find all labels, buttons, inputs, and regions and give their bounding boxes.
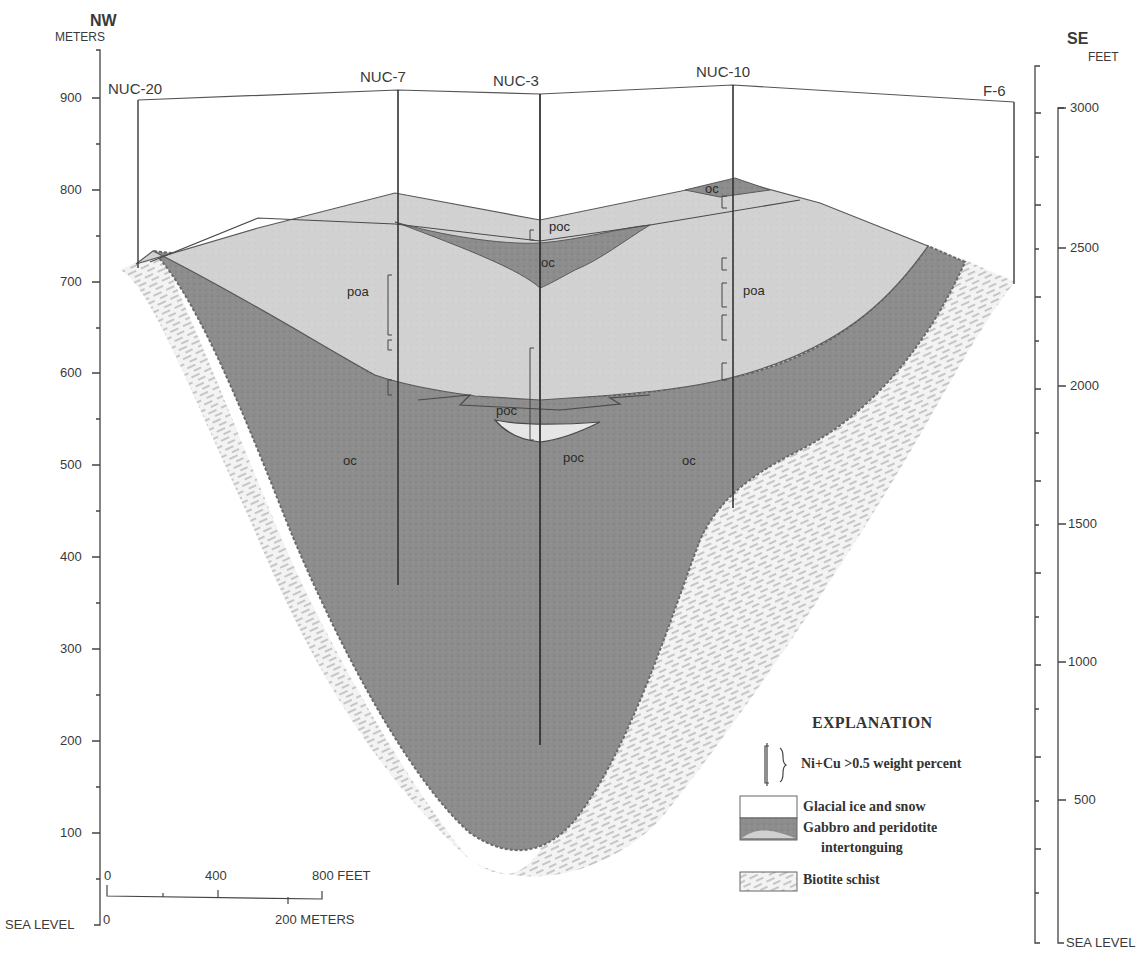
right-tick-1500: 1500 xyxy=(1068,516,1097,531)
right-tick-500: 500 xyxy=(1074,792,1096,807)
schist-swatch xyxy=(740,872,797,891)
left-tick-500: 500 xyxy=(60,457,82,472)
se-direction-label: SE xyxy=(1067,30,1088,48)
scale-meters-0: 0 xyxy=(103,912,110,927)
left-tick-900: 900 xyxy=(60,90,82,105)
survey-line xyxy=(138,85,1014,102)
legend-item-gabbro-line2: intertonguing xyxy=(821,840,903,856)
left-tick-700: 700 xyxy=(60,274,82,289)
unit-label-poc-middle: poc xyxy=(496,403,517,418)
legend-item-biotite-schist: Biotite schist xyxy=(803,872,880,888)
left-tick-800: 800 xyxy=(60,182,82,197)
right-tick-2500: 2500 xyxy=(1070,240,1099,255)
right-axes xyxy=(1035,66,1066,943)
right-tick-3000: 3000 xyxy=(1070,100,1099,115)
unit-label-poc-upper: poc xyxy=(549,219,570,234)
cross-section-diagram xyxy=(0,0,1142,961)
left-axis-unit: METERS xyxy=(55,30,105,44)
drill-hole-label-nuc3: NUC-3 xyxy=(493,72,539,89)
unit-label-oc-nuc10: oc xyxy=(705,181,719,196)
right-tick-sea-level: SEA LEVEL xyxy=(1066,935,1135,950)
unit-label-poa-right: poa xyxy=(743,283,765,298)
drill-hole-label-f6: F-6 xyxy=(983,82,1006,99)
right-tick-1000: 1000 xyxy=(1068,654,1097,669)
left-tick-200: 200 xyxy=(60,733,82,748)
drill-hole-label-nuc20: NUC-20 xyxy=(108,80,162,97)
scale-feet-400: 400 xyxy=(205,868,227,883)
scale-feet-800: 800 FEET xyxy=(312,868,371,883)
bracket-symbol xyxy=(765,743,786,786)
left-tick-sea-level: SEA LEVEL xyxy=(5,917,74,932)
scale-bar xyxy=(107,885,322,904)
unit-label-oc-right: oc xyxy=(682,453,696,468)
right-tick-2000: 2000 xyxy=(1070,378,1099,393)
left-tick-400: 400 xyxy=(60,549,82,564)
legend-item-ni-cu: Ni+Cu >0.5 weight percent xyxy=(801,756,961,772)
unit-label-oc-left: oc xyxy=(343,453,357,468)
legend-swatches xyxy=(740,743,797,891)
right-axis-unit: FEET xyxy=(1088,50,1119,64)
left-tick-600: 600 xyxy=(60,365,82,380)
legend-item-glacial-ice: Glacial ice and snow xyxy=(803,799,926,815)
left-axis xyxy=(92,50,100,925)
legend-item-gabbro: Gabbro and peridotite xyxy=(803,820,937,836)
unit-label-poa-left: poa xyxy=(347,284,369,299)
left-tick-300: 300 xyxy=(60,641,82,656)
unit-label-oc-upper: oc xyxy=(541,255,555,270)
left-tick-100: 100 xyxy=(60,825,82,840)
unit-label-poc-lower: poc xyxy=(563,450,584,465)
scale-meters-200: 200 METERS xyxy=(275,912,354,927)
drill-hole-label-nuc10: NUC-10 xyxy=(696,63,750,80)
drill-hole-label-nuc7: NUC-7 xyxy=(360,68,406,85)
ice-swatch xyxy=(740,796,797,818)
nw-direction-label: NW xyxy=(90,12,117,30)
scale-feet-0: 0 xyxy=(104,868,111,883)
legend-title: EXPLANATION xyxy=(812,714,932,732)
